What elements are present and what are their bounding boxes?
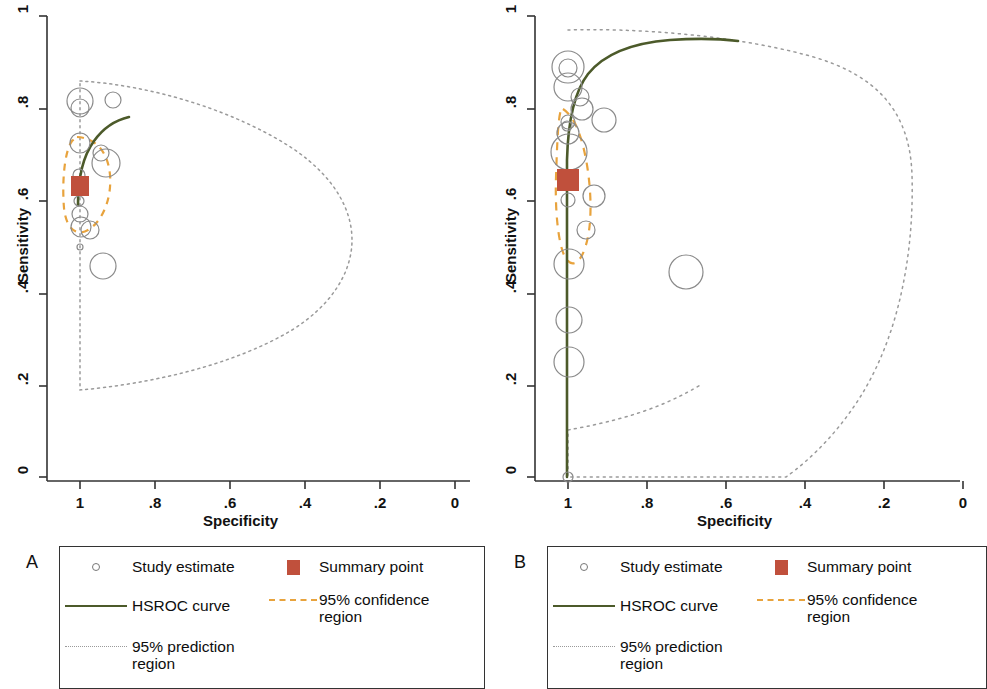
legend-label: 95% prediction region xyxy=(620,638,723,672)
x-tick-label: .8 xyxy=(140,494,170,511)
confidence-region-icon xyxy=(267,591,319,608)
study-circle xyxy=(92,149,120,177)
hsroc-curve-icon xyxy=(548,597,620,615)
x-tick-label: .2 xyxy=(869,494,899,511)
legend-label: HSROC curve xyxy=(620,597,718,614)
summary-point-icon xyxy=(267,558,319,576)
study-circle xyxy=(577,221,595,239)
y-tick-label: .2 xyxy=(14,364,31,394)
legend-label: Study estimate xyxy=(132,558,235,575)
legend-b: Study estimate Summary point HSROC curve… xyxy=(547,546,987,689)
study-circle xyxy=(669,255,703,289)
legend-item-confidence-region: 95% confidence region xyxy=(755,591,917,625)
y-tick-label: .8 xyxy=(14,87,31,117)
legend-item-summary-point: Summary point xyxy=(267,558,423,576)
legend-item-prediction-region: 95% prediction region xyxy=(548,638,723,672)
study-circle xyxy=(105,92,121,108)
legend-label: 95% confidence region xyxy=(319,591,429,625)
x-tick-label: .4 xyxy=(790,494,820,511)
prediction-region-icon xyxy=(548,638,620,655)
panel-a-plot xyxy=(0,0,489,540)
x-tick-label: .4 xyxy=(290,494,320,511)
legend-item-summary-point: Summary point xyxy=(755,558,911,576)
y-tick-label: 0 xyxy=(14,455,31,485)
x-tick-label: .8 xyxy=(632,494,662,511)
summary-point-a xyxy=(71,176,89,196)
prediction-region-b xyxy=(568,30,912,477)
legend-a: Study estimate Summary point HSROC curve… xyxy=(59,546,485,689)
x-tick-label: 0 xyxy=(440,494,470,511)
confidence-region-icon xyxy=(755,591,807,608)
study-circle xyxy=(554,249,584,279)
legend-item-hsroc-curve: HSROC curve xyxy=(548,597,718,615)
legend-label: 95% confidence region xyxy=(807,591,917,625)
summary-point-icon xyxy=(755,558,807,576)
study-circle xyxy=(554,347,584,377)
study-estimates-b xyxy=(551,51,703,482)
y-axis-title: Sensitivity xyxy=(502,208,519,283)
legend-item-prediction-region: 95% prediction region xyxy=(60,638,235,672)
y-axis-title: Sensitivity xyxy=(14,208,31,283)
prediction-region-icon xyxy=(60,638,132,655)
y-tick-label: .6 xyxy=(502,179,519,209)
legend-label: Summary point xyxy=(319,558,423,575)
legend-label: HSROC curve xyxy=(132,597,230,614)
hsroc-curve-icon xyxy=(60,597,132,615)
x-tick-label: .2 xyxy=(365,494,395,511)
panel-a: 1 .8 .6 .4 .2 0 Sensitivity 1 .8 .6 .4 .… xyxy=(0,0,489,689)
study-circle xyxy=(556,307,582,333)
y-tick-label: .6 xyxy=(14,179,31,209)
legend-label: Summary point xyxy=(807,558,911,575)
x-tick-label: 0 xyxy=(948,494,978,511)
study-circle xyxy=(571,98,593,120)
panel-label-a: A xyxy=(26,552,38,573)
legend-label: Study estimate xyxy=(620,558,723,575)
x-tick-label: .6 xyxy=(711,494,741,511)
x-axis-title: Specificity xyxy=(697,512,772,529)
legend-item-study-estimate: Study estimate xyxy=(60,558,235,576)
legend-item-confidence-region: 95% confidence region xyxy=(267,591,429,625)
legend-label: 95% prediction region xyxy=(132,638,235,672)
prediction-region-a xyxy=(80,81,352,390)
y-tick-label: 1 xyxy=(502,0,519,24)
study-circle xyxy=(592,108,616,132)
x-tick-label: 1 xyxy=(65,494,95,511)
legend-item-study-estimate: Study estimate xyxy=(548,558,723,576)
study-estimate-icon xyxy=(548,558,620,576)
x-axis-title: Specificity xyxy=(203,512,278,529)
y-tick-label: .8 xyxy=(502,87,519,117)
study-circle xyxy=(583,185,605,207)
study-circle xyxy=(90,253,116,279)
panel-b: 1 .8 .6 .4 .2 0 Sensitivity 1 .8 .6 .4 .… xyxy=(490,0,979,689)
panel-label-b: B xyxy=(514,552,526,573)
x-tick-label: .6 xyxy=(215,494,245,511)
x-tick-label: 1 xyxy=(553,494,583,511)
panel-b-plot xyxy=(490,0,979,540)
summary-point-b xyxy=(557,169,579,191)
y-tick-label: 0 xyxy=(502,455,519,485)
y-tick-label: .2 xyxy=(502,364,519,394)
study-estimate-icon xyxy=(60,558,132,576)
study-circle xyxy=(571,88,589,106)
y-tick-label: 1 xyxy=(14,0,31,24)
legend-item-hsroc-curve: HSROC curve xyxy=(60,597,230,615)
